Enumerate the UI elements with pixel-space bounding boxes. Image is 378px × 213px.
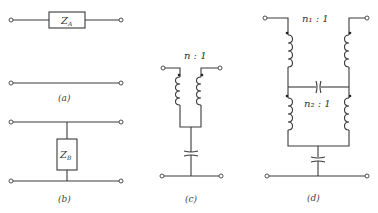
- terminal-icon: [9, 179, 13, 183]
- terminal-icon: [218, 66, 222, 70]
- terminal-icon: [119, 18, 123, 22]
- wire: [180, 105, 201, 127]
- terminal-icon: [160, 174, 164, 178]
- turns-ratio-1-label: n₁ : 1: [302, 13, 329, 24]
- terminal-icon: [219, 174, 223, 178]
- inductor-coil-icon: [288, 35, 293, 67]
- polarity-dot-icon: [178, 74, 181, 77]
- inductor-coil-icon: [176, 77, 181, 105]
- inductor-coil-icon: [345, 98, 350, 130]
- terminal-icon: [119, 179, 123, 183]
- capacitor-plate: [320, 81, 321, 93]
- panel-b: ZB (b): [9, 120, 123, 204]
- wire: [288, 130, 349, 146]
- capacitor-plate: [311, 157, 325, 158]
- terminal-icon: [365, 16, 369, 20]
- polarity-dot-icon: [349, 32, 352, 35]
- caption-c: (c): [185, 194, 198, 204]
- terminal-icon: [119, 81, 123, 85]
- wire: [201, 68, 218, 77]
- terminal-icon: [9, 81, 13, 85]
- caption-d: (d): [307, 193, 320, 203]
- inductor-coil-icon: [345, 35, 350, 67]
- panel-c: n : 1 (c): [160, 50, 223, 204]
- terminal-icon: [263, 16, 267, 20]
- impedance-za-label: ZA: [60, 15, 73, 27]
- capacitor-plate: [316, 81, 317, 93]
- terminal-icon: [9, 18, 13, 22]
- panel-d: n₁ : 1 n₂ : 1 (d): [263, 13, 369, 203]
- turns-ratio-label: n : 1: [184, 50, 207, 61]
- terminal-icon: [265, 174, 269, 178]
- caption-b: (b): [58, 194, 71, 204]
- wire: [267, 18, 288, 35]
- terminal-icon: [161, 66, 165, 70]
- panel-a: ZA (a): [9, 12, 123, 103]
- polarity-dot-icon: [286, 32, 289, 35]
- circuit-figure: ZA (a) ZB (b) n : 1: [0, 0, 378, 213]
- turns-ratio-2-label: n₂ : 1: [304, 98, 331, 109]
- inductor-coil-icon: [288, 98, 293, 130]
- inductor-coil-icon: [197, 77, 202, 105]
- impedance-zb-label: ZB: [59, 149, 72, 161]
- polarity-dot-icon: [286, 95, 289, 98]
- terminal-icon: [365, 174, 369, 178]
- caption-a: (a): [58, 93, 71, 103]
- terminal-icon: [9, 120, 13, 124]
- polarity-dot-icon: [349, 95, 352, 98]
- wire: [349, 18, 365, 35]
- wire: [165, 68, 180, 77]
- polarity-dot-icon: [201, 74, 204, 77]
- terminal-icon: [119, 120, 123, 124]
